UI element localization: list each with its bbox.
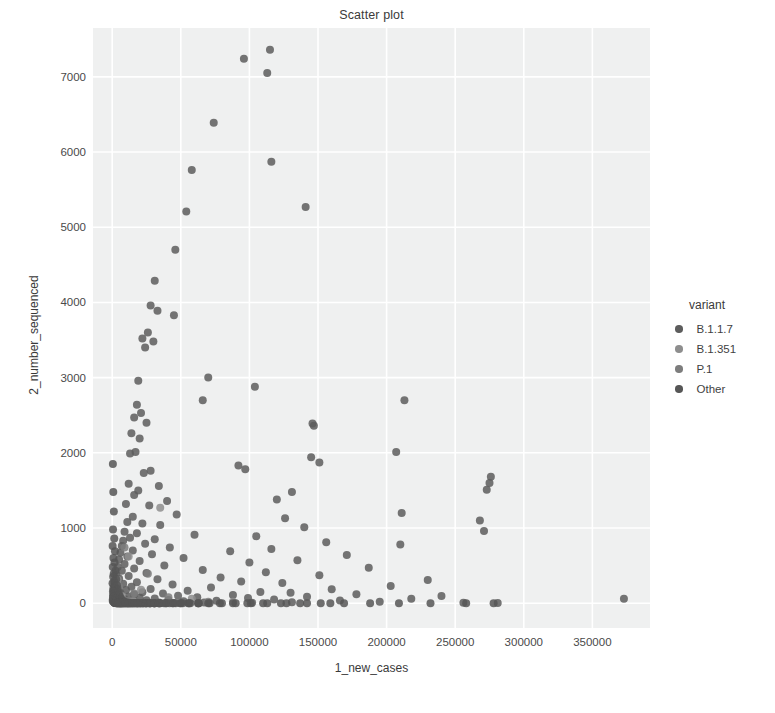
chart-title: Scatter plot <box>93 8 650 22</box>
legend-marker-icon <box>675 385 683 393</box>
y-tick-label: 5000 <box>60 221 86 233</box>
series-B.1.1.7 <box>109 46 628 607</box>
data-points-layer <box>93 28 650 628</box>
x-tick-label: 350000 <box>573 636 611 648</box>
series-Other <box>109 460 498 607</box>
legend-title: variant <box>689 298 772 312</box>
x-tick-label: 250000 <box>436 636 474 648</box>
legend: variant B.1.1.7B.1.351P.1Other <box>667 298 772 399</box>
y-tick-label: 1000 <box>60 522 86 534</box>
legend-label: B.1.351 <box>697 343 737 355</box>
y-axis-tick-labels: 01000200030004000500060007000 <box>0 0 86 713</box>
legend-marker-icon <box>675 345 683 353</box>
legend-entry[interactable]: P.1 <box>667 359 772 379</box>
y-tick-label: 7000 <box>60 71 86 83</box>
y-tick-label: 2000 <box>60 447 86 459</box>
y-tick-label: 4000 <box>60 296 86 308</box>
plot-area <box>93 28 650 628</box>
y-tick-label: 6000 <box>60 146 86 158</box>
x-tick-label: 300000 <box>505 636 543 648</box>
x-tick-label: 150000 <box>299 636 337 648</box>
legend-entry[interactable]: Other <box>667 379 772 399</box>
legend-label: Other <box>697 383 726 395</box>
y-tick-label: 3000 <box>60 372 86 384</box>
y-tick-label: 0 <box>80 597 86 609</box>
legend-entry[interactable]: B.1.1.7 <box>667 319 772 339</box>
x-axis-label: 1_new_cases <box>93 661 650 675</box>
scatter-plot-figure: Scatter plot 050000100000150000200000250… <box>0 0 775 713</box>
y-axis-label: 2_number_sequenced <box>27 205 41 465</box>
legend-marker-icon <box>675 325 683 333</box>
x-tick-label: 200000 <box>367 636 405 648</box>
x-tick-label: 0 <box>109 636 115 648</box>
legend-marker-icon <box>675 365 683 373</box>
x-tick-label: 50000 <box>165 636 197 648</box>
x-tick-label: 100000 <box>230 636 268 648</box>
legend-entries: B.1.1.7B.1.351P.1Other <box>667 319 772 399</box>
legend-entry[interactable]: B.1.351 <box>667 339 772 359</box>
legend-label: P.1 <box>697 363 713 375</box>
legend-label: B.1.1.7 <box>697 323 733 335</box>
